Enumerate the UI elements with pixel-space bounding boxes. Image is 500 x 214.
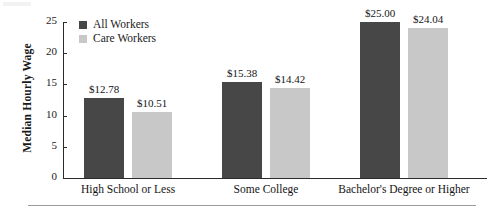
- bar: [360, 22, 400, 178]
- y-tick-mark: [63, 147, 67, 148]
- bar-value-label: $24.04: [400, 13, 456, 25]
- y-tick-label: 25: [46, 14, 57, 26]
- bar-value-label: $12.78: [76, 83, 132, 95]
- y-tick-mark: [63, 22, 67, 23]
- y-tick-mark: [63, 84, 67, 85]
- y-tick: 20: [23, 53, 67, 54]
- legend-label: Care Workers: [93, 32, 156, 45]
- y-tick: 25: [23, 22, 67, 23]
- y-tick-label: 10: [46, 108, 57, 120]
- y-tick-mark: [63, 53, 67, 54]
- bar: [132, 112, 172, 178]
- y-tick-label: 5: [52, 139, 58, 151]
- y-tick-label: 20: [46, 45, 57, 57]
- bar: [408, 28, 448, 178]
- y-tick: 10: [23, 116, 67, 117]
- bar-chart-figure: Median Hourly Wage 2520151050 $12.78$10.…: [0, 0, 500, 214]
- y-axis-line: [63, 22, 64, 178]
- y-tick: 0: [23, 178, 67, 179]
- bar-value-label: $10.51: [124, 97, 180, 109]
- bar-value-label: $14.42: [262, 73, 318, 85]
- y-tick-label: 0: [52, 170, 58, 182]
- y-tick: 5: [23, 147, 67, 148]
- y-tick-label: 15: [46, 76, 57, 88]
- legend-label: All Workers: [93, 18, 149, 31]
- x-axis-category-label: Bachelor's Degree or Higher: [314, 183, 494, 195]
- legend-swatch-icon: [79, 21, 87, 29]
- y-tick-mark: [63, 116, 67, 117]
- chart-legend: All WorkersCare Workers: [79, 18, 156, 46]
- y-axis-title: Median Hourly Wage: [21, 18, 33, 178]
- x-axis-line: [63, 178, 487, 179]
- legend-item[interactable]: Care Workers: [79, 32, 156, 45]
- footer-rule: [28, 205, 476, 206]
- y-tick-mark: [63, 178, 67, 179]
- bar: [222, 82, 262, 178]
- bar: [270, 88, 310, 178]
- bar: [84, 98, 124, 178]
- legend-item[interactable]: All Workers: [79, 18, 156, 31]
- legend-swatch-icon: [79, 35, 87, 43]
- y-tick: 15: [23, 84, 67, 85]
- page-corner-mark: [3, 2, 31, 6]
